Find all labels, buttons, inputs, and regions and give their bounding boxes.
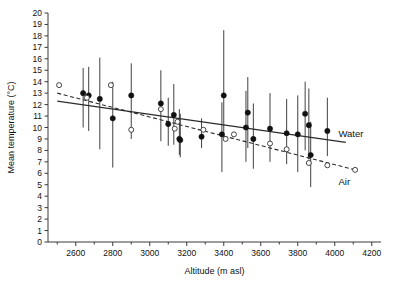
air-data-point: [108, 83, 113, 88]
water-data-point: [199, 134, 204, 139]
air-series-label: Air: [338, 176, 350, 187]
water-series-label: Water: [338, 128, 363, 139]
x-tick-label: 4200: [362, 248, 381, 258]
water-data-point: [110, 116, 115, 121]
water-data-point: [158, 101, 163, 106]
water-data-point: [251, 136, 256, 141]
water-data-point: [171, 112, 176, 117]
air-data-point: [306, 160, 311, 165]
water-data-point: [219, 132, 224, 137]
air-data-point: [201, 127, 206, 132]
x-tick-label: 3400: [214, 248, 233, 258]
y-tick-label: 1: [37, 226, 42, 236]
y-tick-label: 5: [37, 180, 42, 190]
air-data-point: [57, 83, 62, 88]
y-tick-label: 20: [33, 8, 43, 18]
y-tick-label: 8: [37, 145, 42, 155]
y-tick-label: 0: [37, 237, 42, 247]
y-tick-label: 15: [33, 65, 43, 75]
y-tick-label: 7: [37, 157, 42, 167]
air-data-point: [268, 141, 273, 146]
water-data-points: [81, 91, 330, 158]
water-data-point: [81, 91, 86, 96]
chart-figure: 01234567891011121314151617181920 2600280…: [0, 0, 402, 285]
y-tick-label: 17: [33, 42, 43, 52]
x-tick-label: 2800: [103, 248, 122, 258]
y-tick-label: 16: [33, 54, 43, 64]
air-data-points: [57, 83, 358, 173]
scatter-plot-canvas: 01234567891011121314151617181920 2600280…: [0, 0, 402, 285]
water-data-point: [97, 96, 102, 101]
water-data-point: [178, 137, 183, 142]
x-axis-ticks: [57, 242, 372, 246]
y-tick-label: 14: [33, 77, 43, 87]
air-data-point: [172, 126, 177, 131]
x-axis-title: Altitude (m asl): [184, 266, 244, 276]
y-tick-label: 6: [37, 168, 42, 178]
y-axis-ticks: [45, 13, 49, 242]
air-data-point: [175, 119, 180, 124]
x-tick-label: 3800: [288, 248, 307, 258]
y-axis-title: Mean temperature (°C): [6, 81, 16, 173]
water-error-bars: [83, 30, 327, 187]
y-axis-tick-labels: 01234567891011121314151617181920: [33, 8, 43, 247]
water-data-point: [308, 152, 313, 157]
air-data-point: [231, 132, 236, 137]
water-data-point: [245, 110, 250, 115]
water-data-point: [303, 111, 308, 116]
x-tick-label: 4000: [325, 248, 344, 258]
y-tick-label: 4: [37, 191, 42, 201]
y-tick-label: 3: [37, 203, 42, 213]
air-data-point: [353, 167, 358, 172]
air-data-point: [129, 127, 134, 132]
y-tick-label: 2: [37, 214, 42, 224]
y-tick-label: 13: [33, 88, 43, 98]
water-data-point: [221, 93, 226, 98]
y-tick-label: 9: [37, 134, 42, 144]
air-data-point: [84, 95, 89, 100]
x-tick-label: 3000: [140, 248, 159, 258]
air-data-point: [223, 136, 228, 141]
x-tick-label: 3200: [177, 248, 196, 258]
x-axis: 260028003000320034003600380040004200: [48, 242, 381, 258]
air-data-point: [325, 163, 330, 168]
x-axis-tick-labels: 260028003000320034003600380040004200: [66, 248, 381, 258]
air-data-point: [284, 147, 289, 152]
x-tick-label: 2600: [66, 248, 85, 258]
y-tick-label: 18: [33, 31, 43, 41]
water-data-point: [129, 93, 134, 98]
x-tick-label: 3600: [251, 248, 270, 258]
water-data-point: [284, 131, 289, 136]
y-tick-label: 10: [33, 123, 43, 133]
water-data-point: [166, 121, 171, 126]
water-data-point: [267, 126, 272, 131]
y-axis: 01234567891011121314151617181920: [33, 8, 48, 247]
air-data-point: [158, 107, 163, 112]
water-data-point: [243, 125, 248, 130]
water-data-point: [306, 123, 311, 128]
y-tick-label: 19: [33, 19, 43, 29]
water-data-point: [325, 128, 330, 133]
water-data-point: [295, 132, 300, 137]
y-tick-label: 11: [33, 111, 42, 121]
y-tick-label: 12: [33, 100, 43, 110]
